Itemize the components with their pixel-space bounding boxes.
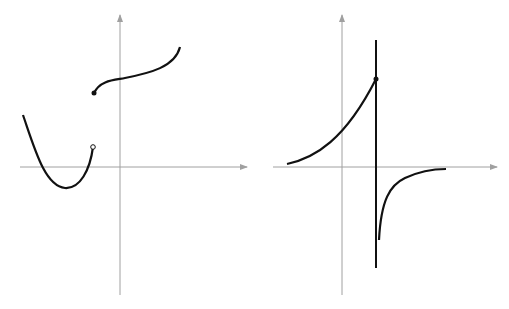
left-upper-branch — [94, 47, 180, 93]
left-parabola-branch — [23, 115, 93, 188]
right-right-branch — [379, 169, 446, 240]
left-graph-panel — [20, 15, 247, 295]
right-left-branch — [287, 79, 376, 164]
closed-endpoint-dot — [92, 91, 97, 96]
right-graph-panel — [273, 15, 497, 295]
function-graphs-diagram — [0, 0, 509, 309]
closed-endpoint-dot — [374, 77, 379, 82]
open-endpoint-dot — [91, 145, 96, 150]
